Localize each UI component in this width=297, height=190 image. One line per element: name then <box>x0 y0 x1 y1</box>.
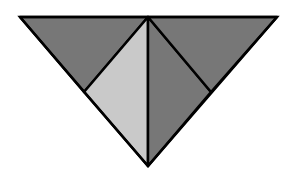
triangle-diagram <box>0 0 297 190</box>
